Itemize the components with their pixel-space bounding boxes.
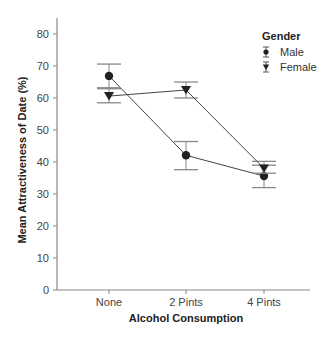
series-group: [97, 64, 276, 188]
y-tick-label: 70: [37, 60, 49, 72]
legend-item-male: Male: [263, 46, 304, 58]
legend-label-female: Female: [280, 61, 317, 73]
circle-marker-icon: [105, 72, 113, 80]
y-tick-label: 20: [37, 220, 49, 232]
x-tick-label: 4 Pints: [247, 296, 281, 308]
triangle-down-marker-icon: [263, 62, 269, 72]
x-tick-label: 2 Pints: [169, 296, 203, 308]
y-tick-label: 60: [37, 92, 49, 104]
circle-marker-icon: [182, 151, 190, 159]
line-chart: 01020304050607080 None2 Pints4 Pints Mea…: [0, 0, 330, 339]
legend-label-male: Male: [280, 46, 304, 58]
y-axis: 01020304050607080: [37, 18, 57, 296]
y-tick-label: 10: [37, 252, 49, 264]
legend-item-female: Female: [263, 61, 317, 73]
y-tick-label: 0: [43, 284, 49, 296]
circle-marker-icon: [263, 47, 269, 57]
y-tick-label: 50: [37, 124, 49, 136]
x-axis-title: Alcohol Consumption: [129, 312, 244, 324]
triangle-down-marker-icon: [104, 92, 114, 101]
y-tick-label: 30: [37, 188, 49, 200]
legend-title: Gender: [262, 30, 301, 42]
x-tick-label: None: [96, 296, 122, 308]
y-axis-title: Mean Attractiveness of Date (%): [16, 76, 28, 243]
x-axis: None2 Pints4 Pints: [57, 290, 310, 308]
triangle-down-marker-icon: [259, 164, 269, 173]
y-tick-label: 80: [37, 28, 49, 40]
legend: Gender Male Female: [262, 30, 317, 73]
y-tick-label: 40: [37, 156, 49, 168]
